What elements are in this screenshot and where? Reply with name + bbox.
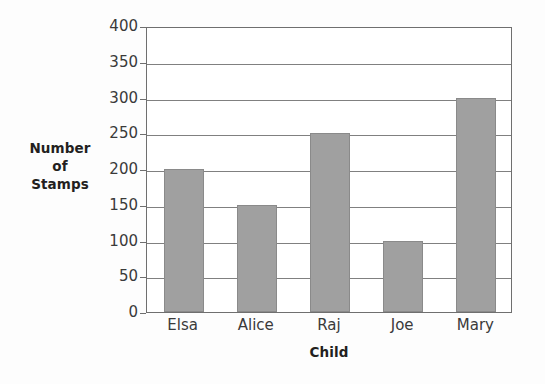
y-axis-tick-mark: [140, 63, 146, 64]
bar: [237, 205, 277, 312]
x-axis-tick-label: Elsa: [146, 318, 219, 333]
y-axis-tick-mark: [140, 206, 146, 207]
bar: [456, 98, 496, 313]
y-axis-tick-mark: [140, 313, 146, 314]
y-axis-tick-label: 100: [82, 234, 138, 249]
y-axis-tick-label: 0: [82, 305, 138, 320]
x-axis-tick-labels: ElsaAliceRajJoeMary: [146, 318, 512, 340]
y-axis-tick-label: 200: [82, 162, 138, 177]
x-axis-tick-label: Mary: [439, 318, 512, 333]
y-axis-tick-mark: [140, 27, 146, 28]
y-axis-tick-label: 250: [82, 126, 138, 141]
bar-slot: [220, 28, 293, 312]
y-axis-tick-label: 350: [82, 55, 138, 70]
y-axis-tick-labels: 050100150200250300350400: [76, 0, 138, 384]
x-axis-tick-label: Raj: [292, 318, 365, 333]
x-axis-title: Child: [146, 344, 512, 360]
bar: [164, 169, 204, 312]
y-axis-tick-label: 400: [82, 19, 138, 34]
bar-slot: [147, 28, 220, 312]
bar-chart: Number of Stamps 05010015020025030035040…: [0, 0, 545, 384]
bar-slot: [440, 28, 513, 312]
y-axis-tick-mark: [140, 242, 146, 243]
bar-slot: [293, 28, 366, 312]
y-axis-tick-mark: [140, 170, 146, 171]
bar-slot: [367, 28, 440, 312]
bar: [310, 133, 350, 312]
x-axis-tick-label: Alice: [219, 318, 292, 333]
bar: [383, 241, 423, 313]
y-axis-tick-mark: [140, 277, 146, 278]
x-axis-tick-label: Joe: [366, 318, 439, 333]
y-axis-tick-label: 300: [82, 91, 138, 106]
y-axis-tick-label: 50: [82, 269, 138, 284]
plot-area: [146, 27, 512, 313]
y-axis-tick-mark: [140, 99, 146, 100]
y-axis-tick-label: 150: [82, 198, 138, 213]
y-axis-tick-mark: [140, 134, 146, 135]
